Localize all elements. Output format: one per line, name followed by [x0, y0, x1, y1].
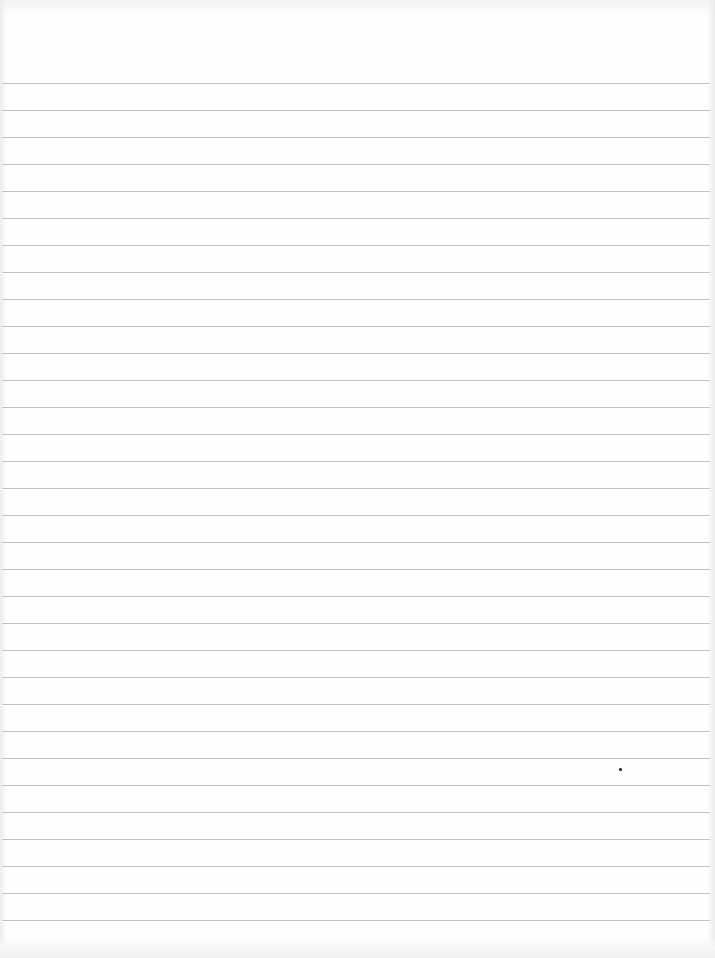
- ruled-line: [2, 758, 710, 759]
- ruled-line: [2, 839, 710, 840]
- ruled-line: [2, 488, 710, 489]
- ruled-line: [2, 866, 710, 867]
- ruled-line: [2, 893, 710, 894]
- ruled-line: [2, 353, 710, 354]
- ruled-line: [2, 731, 710, 732]
- ruled-line: [2, 407, 710, 408]
- ruled-line: [2, 515, 710, 516]
- ruled-line: [2, 434, 710, 435]
- ruled-line: [2, 110, 710, 111]
- lined-paper-page: [0, 0, 715, 958]
- ruled-line: [2, 542, 710, 543]
- scan-texture-bottom: [0, 936, 715, 958]
- ruled-line: [2, 704, 710, 705]
- ruled-line: [2, 650, 710, 651]
- ink-speck: [619, 768, 622, 771]
- ruled-line: [2, 164, 710, 165]
- ruled-line: [2, 245, 710, 246]
- ruled-line: [2, 461, 710, 462]
- ruled-line: [2, 380, 710, 381]
- ruled-line: [2, 920, 710, 921]
- ruled-line: [2, 812, 710, 813]
- ruled-lines: [0, 0, 715, 958]
- ruled-line: [2, 218, 710, 219]
- ruled-line: [2, 137, 710, 138]
- ruled-line: [2, 569, 710, 570]
- ruled-line: [2, 596, 710, 597]
- ruled-line: [2, 326, 710, 327]
- ruled-line: [2, 677, 710, 678]
- ruled-line: [2, 785, 710, 786]
- ruled-line: [2, 299, 710, 300]
- ruled-line: [2, 191, 710, 192]
- ruled-line: [2, 272, 710, 273]
- ruled-line: [2, 83, 710, 84]
- ruled-line: [2, 623, 710, 624]
